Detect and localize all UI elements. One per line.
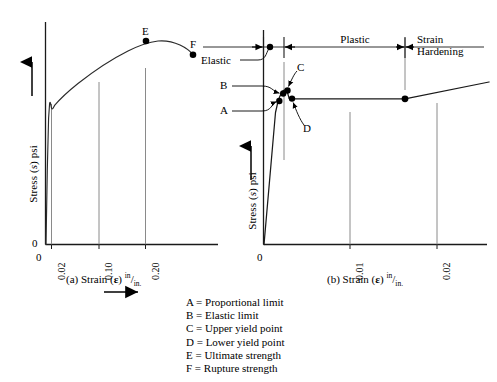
chart-b-point-A <box>276 98 282 104</box>
chart-b-region-label-elastic: Elastic <box>201 54 231 66</box>
chart-b-label-D: D <box>303 122 311 135</box>
chart-a-point-F <box>190 52 197 59</box>
chart-b-point-C <box>284 87 290 93</box>
chart-b-curve <box>264 82 489 245</box>
strain-hardening-line1: Strain <box>417 33 487 45</box>
legend-item: F = Rupture strength <box>186 362 284 375</box>
strain-hardening-line2: Hardening <box>417 45 487 57</box>
chart-b-gridlines <box>284 38 437 245</box>
chart-b-label-A: A <box>220 104 228 117</box>
legend-item: B = Elastic limit <box>186 309 284 322</box>
chart-a-point-E <box>143 38 150 45</box>
chart-a-caption: (a) Strain (ε) in/in. <box>66 271 141 288</box>
chart-a-label-E: E <box>142 25 149 38</box>
chart-b-label-B: B <box>220 79 227 92</box>
chart-a-ylabel: Stress (s) psi <box>27 119 39 229</box>
chart-b-label-C: C <box>297 61 304 74</box>
chart-b-point-strain-hardening-start <box>402 95 409 102</box>
chart-b-elastic-marker <box>267 44 273 50</box>
legend-item: C = Upper yield point <box>186 322 284 335</box>
chart-b-region-label-strain-hardening: Strain Hardening <box>417 33 487 57</box>
point-definitions-legend: A = Proportional limit B = Elastic limit… <box>186 296 284 375</box>
chart-a-xtick-2: 0.20 <box>150 263 161 281</box>
chart-a-label-F: F <box>190 38 196 51</box>
chart-b-xtick-1: 0.02 <box>441 263 452 281</box>
legend-item: A = Proportional limit <box>186 296 284 309</box>
chart-a-origin-y-label: 0 <box>32 237 38 250</box>
chart-b-point-D <box>289 95 295 101</box>
stress-strain-figure: Stress (s) psi 0 0 0.02 0.10 0.20 E F (a… <box>0 0 497 382</box>
chart-b-region-label-plastic: Plastic <box>315 33 395 45</box>
chart-b-ylabel: Stress (s) psi <box>246 146 258 256</box>
chart-a-origin-x-label: 0 <box>36 251 42 264</box>
chart-a-curve <box>46 38 196 245</box>
chart-b-origin-x-label: 0 <box>257 251 263 264</box>
legend-item: D = Lower yield point <box>186 336 284 349</box>
chart-a-xtickmarks <box>52 245 146 250</box>
chart-b-caption: (b) Strain (ε) in/in. <box>327 271 403 288</box>
legend-item: E = Ultimate strength <box>186 349 284 362</box>
chart-b-xtickmarks <box>350 245 437 250</box>
